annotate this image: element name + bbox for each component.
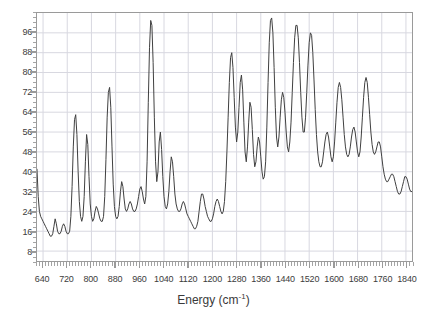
x-axis-title: Energy (cm-1) [0, 292, 427, 307]
y-axis-tick-label: 96 [8, 28, 32, 37]
y-axis-tick-label: 80 [8, 68, 32, 77]
y-axis-tick-label: 48 [8, 148, 32, 157]
y-axis-tick-label: 8 [8, 248, 32, 257]
x-axis-title-base: Energy (cm [177, 293, 238, 307]
spectrum-chart: 81624324048566472808896 6407208008809601… [0, 0, 427, 316]
x-axis-tick-label: 720 [59, 275, 73, 284]
x-axis-tick-labels: 6407208008809601040112012001280136014401… [36, 275, 413, 287]
x-axis-tick-label: 1360 [251, 275, 270, 284]
x-axis-title-tail: ) [246, 293, 250, 307]
x-axis-tick-label: 1040 [154, 275, 173, 284]
y-axis-tick-label: 56 [8, 128, 32, 137]
x-axis-tick-label: 880 [108, 275, 122, 284]
y-axis-tick-label: 40 [8, 168, 32, 177]
y-axis-tick-label: 72 [8, 88, 32, 97]
x-axis-tick-label: 1200 [203, 275, 222, 284]
x-axis-tick-label: 1440 [276, 275, 295, 284]
x-axis-tick-label: 800 [84, 275, 98, 284]
spectrum-curve [37, 13, 412, 261]
x-axis-tick-label: 1120 [179, 275, 198, 284]
x-axis-title-exponent: -1 [239, 292, 246, 301]
plot-area [36, 12, 413, 262]
x-axis-tick-label: 640 [35, 275, 49, 284]
x-axis-tick-label: 1520 [300, 275, 319, 284]
x-axis-tick-label: 1760 [373, 275, 392, 284]
y-axis-tick-label: 16 [8, 228, 32, 237]
y-axis-tick-label: 24 [8, 208, 32, 217]
y-axis-tick-label: 88 [8, 48, 32, 57]
x-axis-tick-label: 1840 [397, 275, 416, 284]
x-axis-tick-label: 1600 [324, 275, 343, 284]
y-axis-tick-labels: 81624324048566472808896 [4, 12, 32, 262]
x-axis-tick-label: 1280 [227, 275, 246, 284]
y-axis-tick-label: 32 [8, 188, 32, 197]
x-axis-tick-label: 960 [132, 275, 146, 284]
y-axis-tick-label: 64 [8, 108, 32, 117]
x-axis-tick-label: 1680 [349, 275, 368, 284]
